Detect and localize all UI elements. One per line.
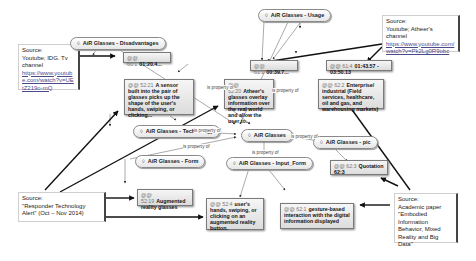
quote-id: @@ 52:19 [141,192,154,204]
edge-label: is property of [272,88,299,93]
quote-62-1[interactable]: @@ 62:1gesture-based interaction with th… [280,203,354,229]
code-icon: ◊ [140,128,143,134]
quote-text: A sensor built into the pair of glasses … [128,82,180,118]
source-label: Source: [386,18,455,26]
source-link[interactable]: https://www.youtube.com/watch?v=UEtZ219o… [22,70,74,91]
source-text: "Responder Technology Alert" (Oct – Nov … [22,203,101,218]
code-label: AiR Glasses [254,132,286,138]
source-text: Youtube; Atheer's channel [386,26,455,41]
source-label: Source: [398,196,453,204]
code-label: AiR Glasses - Usage [271,12,325,18]
edge-label: is property of [194,128,221,133]
edge-label: is property of [252,150,279,155]
quote-61-4[interactable]: @@ 61:401:43.57 - 03:50.13 [326,60,392,71]
source-text: Youtube; IDG. Tv channel [22,55,75,70]
code-icon: ◊ [248,132,251,138]
code-label: AiR Glasses - Disadvantages [83,40,159,46]
source-idg: Source: Youtube; IDG. Tv channel https:/… [18,44,80,90]
edge-label: is property of [291,134,318,139]
code-usage[interactable]: ◊AiR Glasses - Usage [258,9,331,22]
code-icon: ◊ [265,12,268,18]
code-icon: ◊ [142,158,145,164]
code-icon: ◊ [320,139,323,145]
code-icon: ◊ [233,160,236,166]
source-label: Source: [22,47,75,55]
quote-52-4[interactable]: @@ 52:4user's hands, swiping, or clickin… [206,198,264,230]
quote-52-19[interactable]: @@ 52:19Augmented reality glasses [137,189,193,206]
code-icon: ◊ [77,40,80,46]
source-responder: Source: "Responder Technology Alert" (Oc… [18,192,106,222]
quote-62-2[interactable]: @@ 62:2Enterprise/ industrial (Field ser… [318,79,384,109]
edge-label: is property of [207,85,234,90]
code-label: AiR Glasses - Input_Form [239,160,306,166]
code-pic[interactable]: ◊AiR Glasses - pic [313,136,378,149]
code-glasses[interactable]: ◊AiR Glasses [241,129,293,142]
source-academic: Source: Academic paper "Embodied Informa… [394,193,458,243]
edge-label: is property of [183,144,210,149]
code-label: AiR Glasses - pic [326,139,371,145]
quote-52-21[interactable]: @@ 52:21A sensor built into the pair of … [124,79,194,115]
source-atheer: Source: Youtube; Atheer's channel https:… [382,15,460,52]
quote-62-3[interactable]: @@ 62:3Quotation 62:3 [330,160,388,175]
source-link[interactable]: https://www.youtube.com/watch?v=Pk2Lg0R9… [386,41,454,55]
quote-52-20[interactable]: @@ 52:20Atheer's glasses overlay informa… [224,79,274,109]
code-form[interactable]: ◊AiR Glasses - Form [135,155,205,168]
quote-text: 00:39.7... [266,69,288,75]
source-label: Source: [22,195,101,203]
code-disadvantages[interactable]: ◊AiR Glasses - Disadvantages [70,37,166,50]
quote-id: @@ 60:1 [127,55,138,67]
quote-60-1[interactable]: @@ 60:101:20.4... [123,52,171,63]
source-text: Academic paper "Embodied Information Beh… [398,204,453,249]
quote-61-1[interactable]: @@ 61:100:39.7... [250,60,298,71]
quote-id: @@ 61:1 [254,63,265,75]
quote-text: 01:20.4... [139,61,161,67]
code-label: AiR Glasses - Form [148,158,199,164]
code-input-form[interactable]: ◊AiR Glasses - Input_Form [226,157,313,170]
